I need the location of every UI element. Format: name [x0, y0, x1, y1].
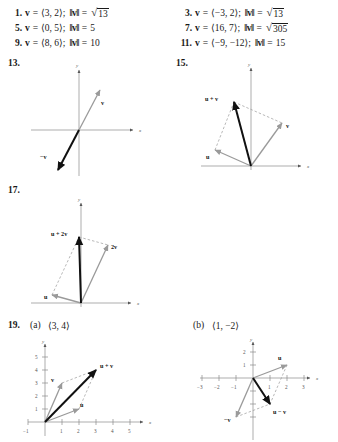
- vector-2v-arrow: [81, 245, 108, 303]
- radical-sign: √: [91, 7, 97, 20]
- figure-15-number: 15.: [176, 58, 188, 68]
- answer-item: 5. v = ⟨0, 5⟩ ; ‖v‖ = 5: [6, 21, 109, 36]
- answer-number: 3.: [176, 6, 192, 21]
- answer-number: 7.: [176, 21, 192, 36]
- x-tick-label: −2: [214, 384, 220, 390]
- y-tick-label: 2: [35, 393, 38, 399]
- vector-u-plus-2v-label: u + 2v: [51, 230, 68, 237]
- y-tick-label: 2: [243, 349, 246, 355]
- vector-u-label: u: [278, 354, 282, 361]
- vector-symbol: v: [25, 6, 30, 21]
- norm-equals-sign: =: [82, 6, 87, 21]
- answer-number: 9.: [6, 36, 22, 51]
- x-axis-label: x: [306, 164, 310, 169]
- figure-19b-answer: ⟨1, −2⟩: [212, 320, 239, 331]
- radicand: 305: [272, 23, 288, 35]
- radical-sign: √: [267, 7, 273, 20]
- vector-v-label: v: [101, 99, 105, 106]
- equals-sign: =: [33, 6, 38, 21]
- vector-u-label: u: [206, 153, 210, 160]
- vector-components: ⟨16, 7⟩: [211, 21, 237, 36]
- vector-norm-symbol: ‖v‖: [255, 36, 264, 51]
- vector-components: ⟨8, 6⟩: [41, 36, 63, 51]
- x-axis-label: x: [136, 301, 140, 306]
- vector-symbol: v: [25, 21, 30, 36]
- parallelogram-dash-left: [52, 237, 79, 295]
- vector-v-label: v: [51, 376, 55, 383]
- vector-u-label: u: [44, 293, 48, 300]
- figure-19a-answer: ⟨3, 4⟩: [48, 320, 70, 331]
- parallelogram-dash-top: [79, 237, 108, 245]
- square-root-expression: √ 13: [267, 7, 285, 20]
- answers-left-column: 1. v = ⟨3, 2⟩ ; ‖v‖ = √ 13 5. v = ⟨0, 5⟩…: [6, 6, 109, 51]
- vector-u-arrow: [215, 150, 251, 166]
- vector-neg-v-arrow: [58, 130, 79, 170]
- equals-sign: =: [33, 36, 38, 51]
- vector-v-arrow: [251, 123, 282, 166]
- y-tick-label: 1: [243, 362, 246, 368]
- vector-u-minus-v-label: u − v: [273, 408, 287, 415]
- figure-15: 15. x y u v u + v: [168, 58, 338, 178]
- x-tick-label: 2: [285, 384, 288, 390]
- figure-15-plot: x y u v u + v: [168, 58, 338, 178]
- vector-components: ⟨−9, −12⟩: [211, 36, 248, 51]
- semicolon: ;: [63, 21, 66, 36]
- vector-neg-v-label: −v: [40, 153, 48, 160]
- x-tick-label: 1: [60, 428, 63, 434]
- answer-item: 7. v = ⟨16, 7⟩ ; ‖v‖ = √ 305: [176, 21, 288, 36]
- figure-13-number: 13.: [8, 58, 20, 68]
- y-axis-label: y: [247, 62, 251, 67]
- radicand: 13: [273, 8, 285, 20]
- semicolon: ;: [238, 6, 241, 21]
- answer-number: 1.: [6, 6, 22, 21]
- radical-sign: √: [266, 22, 272, 35]
- radicand: 13: [97, 8, 109, 20]
- answers-right-column: 3. v = ⟨−3, 2⟩ ; ‖v‖ = √ 13 7. v = ⟨16, …: [176, 6, 288, 51]
- y-tick-label: 3: [35, 380, 38, 386]
- vector-u-label: u: [80, 401, 84, 408]
- x-tick-label: −3: [197, 384, 203, 390]
- square-root-expression: √ 13: [91, 7, 109, 20]
- norm-equals-sign: =: [267, 36, 272, 51]
- vector-2v-label: 2v: [111, 243, 118, 250]
- norm-equals-sign: =: [82, 21, 87, 36]
- equals-sign: =: [203, 6, 208, 21]
- vector-symbol: v: [195, 36, 200, 51]
- norm-value: 10: [90, 36, 100, 51]
- x-tick-label: 1: [268, 384, 271, 390]
- norm-equals-sign: =: [82, 36, 87, 51]
- vector-norm-symbol: ‖v‖: [69, 6, 78, 21]
- parallelogram-dash-left: [215, 102, 234, 150]
- equals-sign: =: [203, 36, 208, 51]
- x-tick-label: 4: [111, 428, 114, 434]
- vector-v-arrow: [79, 90, 100, 130]
- figure-19b-plot: x y −3 −2 −1 1 2 3 1 2: [168, 336, 338, 442]
- vector-symbol: v: [195, 21, 200, 36]
- figure-17-number: 17.: [8, 185, 20, 195]
- figure-17-plot: x y u 2v u + 2v: [0, 185, 180, 315]
- figure-19a-part-label: (a): [30, 320, 41, 330]
- y-axis-label: y: [75, 63, 79, 68]
- vector-symbol: v: [25, 36, 30, 51]
- y-axis-label: y: [249, 337, 253, 342]
- semicolon: ;: [63, 36, 66, 51]
- figure-13-plot: x y v −v: [0, 58, 170, 178]
- x-tick-label: 2: [77, 428, 80, 434]
- vector-neg-v-label: −v: [224, 416, 232, 423]
- vector-u-plus-v-label: u + v: [100, 362, 114, 369]
- x-tick-label: 3: [302, 384, 305, 390]
- answer-item: 3. v = ⟨−3, 2⟩ ; ‖v‖ = √ 13: [176, 6, 288, 21]
- x-tick-label: −1: [231, 384, 237, 390]
- answer-number: 11.: [176, 36, 192, 51]
- vector-components: ⟨3, 2⟩: [41, 6, 63, 21]
- figure-19b-part-label: (b): [193, 320, 204, 330]
- y-axis-label: y: [77, 197, 81, 202]
- parallelogram-dash-top: [234, 102, 282, 123]
- equals-sign: =: [203, 21, 208, 36]
- figure-19-number: 19.: [8, 320, 20, 330]
- figure-19b: (b) ⟨1, −2⟩ x y −3 −2 −1 1 2 3: [168, 320, 338, 442]
- answer-number: 5.: [6, 21, 22, 36]
- equals-sign: =: [33, 21, 38, 36]
- x-tick-label: 3: [94, 428, 97, 434]
- figure-19a-plot: x y −1 1 2 3 4 5 1 2 3 4 5: [0, 336, 170, 440]
